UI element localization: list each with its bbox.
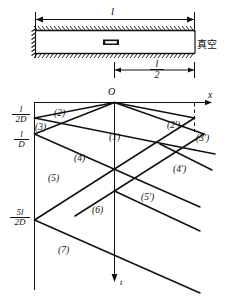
length-dimension-l <box>36 12 195 32</box>
region-label-5: (5) <box>48 173 59 183</box>
tick-denominator: 2D <box>12 114 30 124</box>
wave-O-to-leftwall-lower <box>35 103 115 135</box>
wave-O-to-right-upper <box>115 103 195 119</box>
tick-numerator: l <box>12 105 30 114</box>
tick-denominator: 2D <box>10 217 30 227</box>
tube-length-label: l <box>111 5 114 17</box>
bottom-wall-hatching <box>34 54 193 58</box>
wave-O-to-right-lower <box>115 103 205 135</box>
region-label-1: (1) <box>109 132 120 142</box>
half-length-numerator: l <box>150 59 164 69</box>
wave-O-to-leftwall-upper <box>35 103 115 119</box>
reflected-wave-2-cont <box>195 150 216 154</box>
tick-numerator: 5l <box>10 208 30 217</box>
region-label-4-prime: (4') <box>173 164 186 174</box>
tick-label-l-over-D: l D <box>14 130 29 149</box>
region-label-2-prime: (2') <box>167 120 180 130</box>
diaphragm-icon <box>103 40 119 46</box>
region-label-2: (2) <box>54 108 65 118</box>
wave-trailing-5prime <box>115 191 201 231</box>
region-label-3: (3) <box>35 122 46 132</box>
region-label-4: (4) <box>74 153 85 163</box>
region-label-3-prime: (3') <box>196 133 209 143</box>
half-length-fraction: l 2 <box>150 59 164 80</box>
top-wall-hatching <box>34 26 193 30</box>
vacuum-label: 真空 <box>197 36 217 51</box>
characteristic-lines <box>35 103 216 294</box>
tick-denominator: D <box>14 139 29 149</box>
region-label-7: (7) <box>58 245 69 255</box>
figure-root: l 真空 l 2 <box>0 0 228 302</box>
half-length-denominator: 2 <box>150 69 164 80</box>
t-axis-label: t <box>120 277 123 287</box>
region-label-5-prime: (5') <box>141 192 154 202</box>
region-label-6: (6) <box>92 205 103 215</box>
origin-label: O <box>108 86 115 97</box>
x-axis-label: x <box>208 89 212 100</box>
left-end-wall <box>32 27 36 58</box>
tick-numerator: l <box>14 130 29 139</box>
tick-label-l-over-2D: l 2D <box>12 105 30 124</box>
reflected-wave-7 <box>35 220 201 293</box>
tick-label-5l-over-2D: 5l 2D <box>10 208 30 227</box>
